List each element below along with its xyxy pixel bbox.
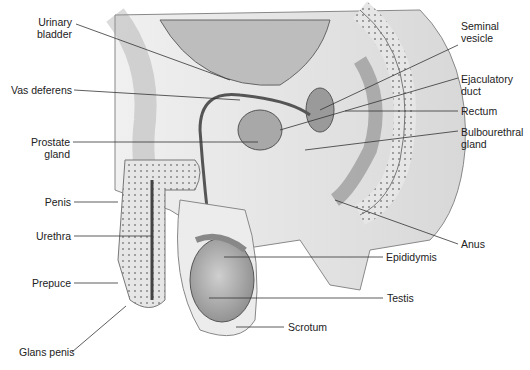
label-penis: Penis (0, 196, 71, 208)
label-bulbourethral-gland: Bulbourethral gland (461, 126, 523, 150)
label-vas-deferens: Vas deferens (0, 84, 72, 96)
anatomy-illustration (0, 0, 530, 370)
label-epididymis: Epididymis (386, 251, 437, 263)
label-anus: Anus (461, 238, 485, 250)
label-rectum: Rectum (461, 105, 497, 117)
anatomy-diagram: Urinary bladder Vas deferens Prostate gl… (0, 0, 530, 370)
label-urinary-bladder: Urinary bladder (0, 16, 72, 40)
label-seminal-vesicle: Seminal vesicle (461, 20, 499, 44)
label-prepuce: Prepuce (0, 277, 71, 289)
label-urethra: Urethra (0, 230, 71, 242)
label-ejaculatory-duct: Ejaculatory duct (461, 73, 513, 97)
label-glans-penis: Glans penis (19, 346, 74, 358)
label-scrotum: Scrotum (288, 321, 327, 333)
label-testis: Testis (387, 292, 414, 304)
label-prostate-gland: Prostate gland (0, 136, 70, 160)
